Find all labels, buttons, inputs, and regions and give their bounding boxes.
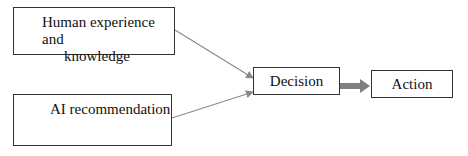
thick-arrow-decision-to-action: [340, 79, 370, 93]
node-human-experience: Human experience and knowledge: [13, 7, 175, 55]
node-label-line2: knowledge: [42, 48, 174, 65]
arrow-ai-to-decision: [172, 92, 253, 118]
arrow-human-to-decision: [175, 30, 253, 78]
node-label-line1: Human experience and: [42, 14, 155, 47]
node-label: Decision: [270, 73, 323, 89]
node-label: AI recommendation: [50, 101, 170, 117]
node-decision: Decision: [253, 67, 340, 95]
node-action: Action: [371, 70, 453, 98]
node-label: Action: [392, 76, 433, 92]
node-ai-recommendation: AI recommendation: [13, 94, 172, 146]
